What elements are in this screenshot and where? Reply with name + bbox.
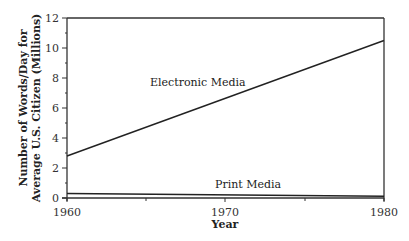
series-print-media	[67, 194, 384, 197]
line-chart: 0 2 4 6 8 10 12 1960 1970 1980 Year Numb…	[0, 0, 409, 241]
y-ticks	[62, 18, 67, 198]
y-axis-title: Number of Words/Day for Average U.S. Cit…	[17, 14, 43, 204]
y-tick-8: 8	[52, 72, 59, 85]
y-tick-12: 12	[45, 12, 59, 25]
plot-frame	[62, 18, 384, 201]
label-print-media: Print Media	[215, 178, 282, 191]
series-electronic-media	[67, 41, 384, 157]
y-tick-10: 10	[45, 42, 59, 55]
x-tick-1960: 1960	[53, 206, 81, 219]
y-tick-2: 2	[52, 162, 59, 175]
x-axis-title: Year	[211, 218, 239, 231]
y-tick-labels: 0 2 4 6 8 10 12	[45, 12, 59, 205]
y-tick-6: 6	[52, 102, 59, 115]
y-axis-title-line2: Average U.S. Citizen (Millions)	[30, 14, 43, 204]
x-tick-1980: 1980	[370, 206, 398, 219]
label-electronic-media: Electronic Media	[150, 76, 246, 89]
y-axis-title-line1: Number of Words/Day for	[17, 29, 30, 186]
y-tick-4: 4	[52, 132, 59, 145]
y-tick-0: 0	[52, 192, 59, 205]
